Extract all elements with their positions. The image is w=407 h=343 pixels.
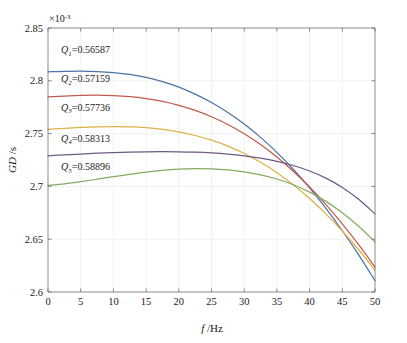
chart-figure: 051015202530354045502.62.652.72.752.82.8… [0,0,407,343]
y-tick-label: 2.8 [30,75,43,86]
y-tick-label: 2.7 [30,181,43,192]
y-tick-label: 2.6 [30,287,43,298]
series-annotation-1: Q1=0.56587 [61,44,110,58]
x-tick-label: 20 [174,296,185,307]
series-annotation-4: Q4=0.58313 [61,133,110,147]
line-chart: 051015202530354045502.62.652.72.752.82.8… [0,0,407,343]
x-tick-label: 30 [239,296,250,307]
y-tick-label: 2.85 [25,23,43,34]
y-axis-title: GD /s [6,147,18,173]
x-tick-label: 45 [337,296,348,307]
x-tick-label: 10 [108,296,119,307]
x-tick-label: 50 [370,296,381,307]
y-tick-label: 2.65 [25,234,43,245]
series-annotation-2: Q2=0.57159 [61,73,110,87]
x-axis-title: f /Hz [201,322,223,334]
y-axis-exponent: ×10-3 [49,13,71,25]
gridlines [48,28,375,292]
x-tick-label: 25 [206,296,217,307]
x-tick-label: 0 [45,296,50,307]
series-annotation-3: Q3=0.57736 [61,102,110,116]
series-annotation-5: Q5=0.58896 [61,161,110,175]
x-tick-label: 40 [304,296,315,307]
x-tick-label: 5 [78,296,83,307]
x-tick-label: 15 [141,296,152,307]
y-tick-label: 2.75 [25,128,43,139]
x-tick-label: 35 [272,296,283,307]
